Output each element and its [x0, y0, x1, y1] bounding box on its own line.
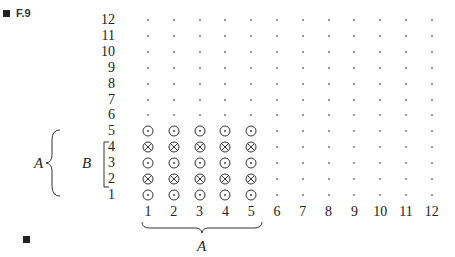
inner-left-bracket-icon [104, 142, 109, 187]
outer-bracket-label: A [34, 155, 43, 172]
brackets [0, 0, 455, 257]
bottom-brace-icon [142, 222, 262, 233]
outer-left-brace-icon [46, 130, 60, 196]
inner-bracket-label: B [82, 155, 91, 172]
bottom-bracket-label: A [197, 238, 206, 255]
